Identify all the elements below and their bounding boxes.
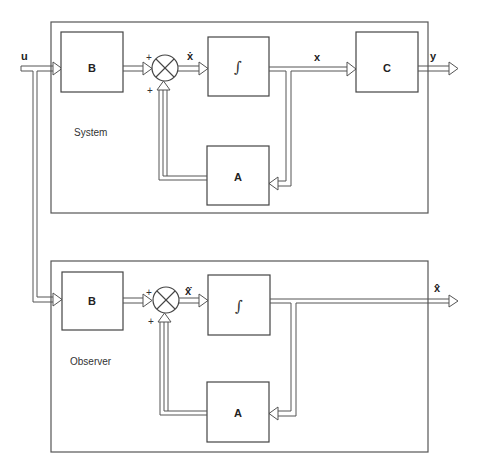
- input-u-label: u: [21, 50, 28, 62]
- observer-xhat-dot-label: x̂̇: [185, 285, 192, 297]
- system-xdot-label: ẋ: [187, 50, 194, 62]
- observer-feedback-pipe: [158, 313, 207, 415]
- system-sum-to-integrator-pipe: [178, 62, 208, 75]
- system-state-pipe: [269, 62, 356, 190]
- observer-integral-icon: ∫: [235, 297, 243, 315]
- system-b-to-sum-pipe: [123, 62, 152, 75]
- system-x-label: x: [314, 51, 321, 63]
- observer-xhat-label: x̂: [434, 282, 441, 294]
- observer-b-label: B: [88, 295, 96, 307]
- system-summing-junction-icon: [152, 55, 178, 81]
- observer-block-diagram: u B + ẋ ∫ x C y System: [0, 0, 477, 471]
- observer-summing-junction-icon: [153, 287, 179, 313]
- arrowhead-icon: [53, 293, 62, 306]
- system-sum-plus-top: +: [146, 52, 152, 63]
- observer-sum-plus-top: +: [146, 287, 152, 298]
- system-feedback-pipe: [157, 81, 207, 180]
- system-output-y-pipe: [418, 62, 458, 75]
- observer-sum-to-integrator-pipe: [179, 294, 208, 307]
- system-b-label: B: [88, 62, 96, 74]
- system-a-label: A: [234, 171, 242, 183]
- observer-region-label: Observer: [70, 356, 112, 367]
- system-integral-icon: ∫: [234, 58, 242, 76]
- system-c-label: C: [383, 62, 391, 74]
- system-y-label: y: [430, 50, 437, 62]
- observer-state-pipe: [269, 295, 458, 420]
- system-region-label: System: [74, 127, 107, 138]
- input-u-pipe: [21, 62, 62, 306]
- system-sum-plus-bottom: +: [147, 85, 153, 96]
- observer-sum-plus-bottom: +: [148, 316, 154, 327]
- observer-a-label: A: [234, 407, 242, 419]
